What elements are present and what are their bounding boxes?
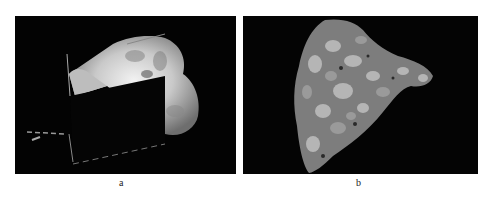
- micrograph-a: [15, 16, 236, 174]
- panel-label-b: b: [356, 177, 361, 188]
- figure-panel-b: [243, 16, 478, 174]
- micrograph-b: [243, 16, 478, 174]
- figure-panel-a: [15, 16, 236, 174]
- panel-label-a: a: [119, 177, 123, 188]
